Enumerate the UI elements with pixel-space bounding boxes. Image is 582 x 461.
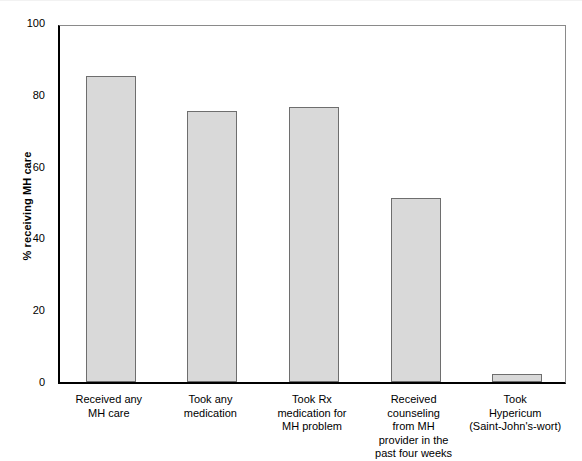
y-tick-label: 0: [39, 376, 45, 388]
y-tick-label: 100: [27, 17, 45, 29]
bar: [86, 76, 136, 382]
y-axis-title: % receiving MH care: [21, 116, 33, 296]
bar: [289, 107, 339, 382]
x-axis-label: Received any MH care: [58, 393, 160, 420]
plot-area: [58, 25, 566, 384]
y-tick-label: 20: [33, 304, 45, 316]
x-axis-label: Took any medication: [160, 393, 262, 420]
x-axis-label: Received counseling from MH provider in …: [363, 393, 465, 461]
x-axis-label: Took Hypericum (Saint-John's-wort): [464, 393, 566, 434]
bar: [391, 198, 441, 382]
bar: [492, 374, 542, 382]
x-axis-label: Took Rx medication for MH problem: [261, 393, 363, 434]
y-tick-label: 60: [33, 161, 45, 173]
bar: [187, 111, 237, 382]
y-tick-label: 80: [33, 89, 45, 101]
y-tick-label: 40: [33, 232, 45, 244]
scan-artifact-line: [0, 0, 582, 1]
